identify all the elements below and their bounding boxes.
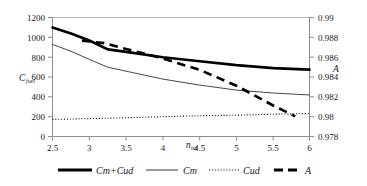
x-axis-title-subscript: tot	[191, 145, 198, 151]
x-tick-label: 4	[161, 143, 166, 153]
x-tick-label: 6	[307, 143, 312, 153]
y-left-tick-label: 200	[32, 112, 46, 122]
y-left-tick-label: 400	[32, 92, 46, 102]
chart-legend: Cm+Cud Cm Cud A	[58, 165, 312, 176]
y-right-tick-label: 0.988	[318, 33, 339, 43]
y-right-tick-label: 0.978	[318, 132, 339, 142]
x-axis-tick-labels: 2.5 3 3.5 4 4.5 5 5.5 6	[47, 143, 312, 153]
x-tick-label: 5	[234, 143, 239, 153]
y-axis-right-ticks	[310, 18, 314, 137]
y-left-tick-label: 800	[32, 53, 46, 63]
y-right-tick-label: 0.982	[318, 92, 338, 102]
chart-container: 1200 1000 800 600 400 200 0 C fuel 0.99 …	[0, 0, 367, 186]
legend-label-cm-plus-cud: Cm+Cud	[96, 165, 134, 176]
x-axis-ticks	[53, 137, 310, 141]
legend-label-cm: Cm	[183, 165, 197, 176]
y-left-tick-label: 1000	[27, 33, 46, 43]
legend-label-a: A	[304, 165, 312, 176]
y-axis-left-title-text: C	[19, 73, 26, 83]
x-tick-label: 2.5	[47, 143, 59, 153]
y-right-tick-label: 0.98	[318, 112, 334, 122]
x-axis-title: n tot	[186, 140, 198, 151]
x-tick-label: 3	[87, 143, 92, 153]
y-left-tick-label: 1200	[27, 13, 46, 23]
y-axis-right-tick-labels: 0.99 0.988 0.986 0.984 0.982 0.98 0.978	[318, 13, 339, 142]
y-axis-right-title-text: A	[332, 64, 339, 74]
series-line-a	[82, 41, 295, 117]
chart-svg: 1200 1000 800 600 400 200 0 C fuel 0.99 …	[0, 0, 367, 186]
x-tick-label: 5.5	[268, 143, 280, 153]
y-right-tick-label: 0.99	[318, 13, 334, 23]
x-tick-label: 3.5	[120, 143, 132, 153]
y-right-tick-label: 0.986	[318, 53, 339, 63]
y-axis-left-title-subscript: fuel	[26, 78, 35, 84]
series-line-cud	[53, 114, 310, 120]
y-axis-left-ticks	[48, 18, 52, 137]
series-line-cm	[53, 44, 310, 95]
y-left-tick-label: 0	[41, 132, 46, 142]
legend-label-cud: Cud	[243, 165, 261, 176]
